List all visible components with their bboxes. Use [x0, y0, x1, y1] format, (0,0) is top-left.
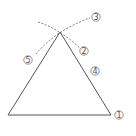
step-label-3: 3 — [92, 13, 100, 22]
svg-text:2: 2 — [81, 47, 86, 56]
construction-arc-1 — [38, 22, 80, 48]
step-label-5: 5 — [24, 56, 32, 65]
svg-text:5: 5 — [25, 56, 30, 65]
svg-text:1: 1 — [116, 111, 121, 120]
step-label-2: 2 — [80, 47, 88, 56]
svg-text:3: 3 — [93, 13, 98, 22]
triangle-construction-diagram: 1 2 3 4 5 — [0, 0, 136, 136]
step-label-4: 4 — [91, 67, 99, 76]
step-label-1: 1 — [115, 111, 123, 120]
diagram-canvas: 1 2 3 4 5 — [0, 0, 136, 136]
svg-text:4: 4 — [92, 67, 97, 76]
